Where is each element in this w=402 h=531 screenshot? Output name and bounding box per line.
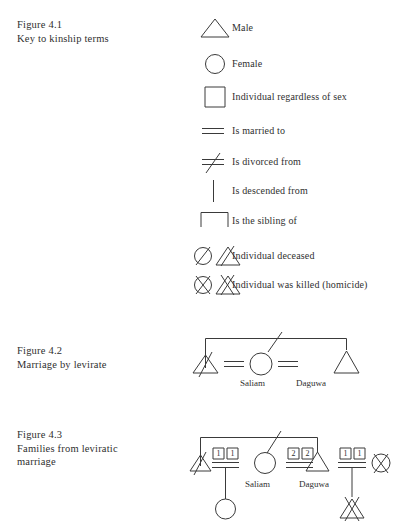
circle-icon: [206, 55, 225, 74]
square-icon: [205, 87, 225, 107]
legend-label-homicide: Individual was killed (homicide): [232, 279, 368, 291]
figure-4-3-name-daguwa: Daguwa: [299, 479, 329, 490]
legend-label-male: Male: [232, 22, 253, 34]
triangle-icon: [201, 19, 229, 37]
figure-4-2-caption: Figure 4.2 Marriage by levirate: [17, 344, 107, 371]
marriage-box-number: 2: [302, 450, 313, 458]
marriage-box-number: 1: [213, 450, 224, 458]
legend-label-divorced: Is divorced from: [232, 156, 301, 168]
marriage-box-number: 1: [227, 450, 238, 458]
figure-4-3-caption: Figure 4.3 Families from leviratic marri…: [17, 428, 118, 469]
legend-label-married: Is married to: [232, 125, 285, 137]
figure-4-2-name-daguwa: Daguwa: [296, 378, 326, 389]
figure-4-2-diagram: [193, 332, 359, 377]
marriage-box-number: 2: [288, 450, 299, 458]
legend-label-female: Female: [232, 58, 262, 70]
marriage-box-number: 1: [354, 450, 365, 458]
double-line-slash-icon: [202, 153, 224, 173]
sibling-bracket-icon: [201, 213, 228, 228]
legend-label-descended: Is descended from: [232, 185, 308, 197]
figure-4-3-diagram: [190, 431, 390, 521]
figure-4-2-name-saliam: Saliam: [240, 378, 265, 389]
double-line-icon: [202, 129, 224, 134]
legend-label-deceased: Individual deceased: [232, 250, 315, 262]
legend-label-individual: Individual regardless of sex: [232, 91, 347, 103]
figure-4-3-name-saliam: Saliam: [245, 479, 270, 490]
legend-label-sibling: Is the sibling of: [232, 215, 297, 227]
marriage-box-number: 1: [340, 450, 351, 458]
